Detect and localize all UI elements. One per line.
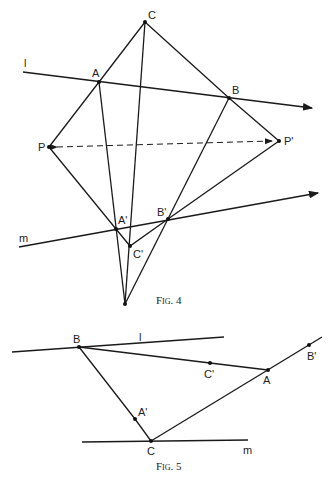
segment-B-Cp-A bbox=[79, 347, 268, 370]
point-Ap bbox=[133, 417, 137, 421]
label-Pp: P' bbox=[284, 135, 293, 147]
point-Pp bbox=[277, 139, 281, 143]
label-line-l: l bbox=[24, 57, 26, 69]
label-Bp: B' bbox=[157, 206, 166, 218]
point-P bbox=[47, 145, 51, 149]
line-m bbox=[82, 440, 248, 442]
point-A bbox=[266, 368, 270, 372]
point-O bbox=[123, 302, 127, 306]
point-Ap bbox=[114, 227, 118, 231]
label-line-l: l bbox=[139, 331, 141, 343]
point-Bp bbox=[166, 217, 170, 221]
label-C: C bbox=[148, 9, 156, 21]
segment-B-Ap-C bbox=[79, 347, 151, 441]
point-B bbox=[227, 96, 231, 100]
figure-4: C A B P P' A' B' C' l m Fig. 4 bbox=[19, 9, 318, 306]
caption-fig-5: Fig. 5 bbox=[156, 460, 182, 472]
label-C: C bbox=[147, 445, 155, 457]
label-line-m: m bbox=[19, 232, 28, 244]
figure-5: B C' A B' A' C l m Fig. 5 bbox=[12, 331, 322, 472]
ray-O-C bbox=[125, 22, 145, 304]
caption-fig-4: Fig. 4 bbox=[156, 294, 182, 306]
label-Ap: A' bbox=[138, 406, 147, 418]
label-Bp: B' bbox=[307, 350, 316, 362]
label-B: B bbox=[73, 333, 80, 345]
label-Cp: C' bbox=[133, 248, 143, 260]
label-P: P bbox=[38, 141, 45, 153]
point-A bbox=[97, 80, 101, 84]
line-l bbox=[12, 337, 224, 352]
dashed-P-Pp bbox=[57, 141, 272, 147]
point-C bbox=[149, 439, 153, 443]
label-B: B bbox=[232, 84, 239, 96]
label-A: A bbox=[92, 67, 100, 79]
label-A: A bbox=[263, 374, 271, 386]
diagram-canvas: C A B P P' A' B' C' l m Fig. 4 B C' A B'… bbox=[0, 0, 334, 482]
segment-C-A-Bp bbox=[151, 337, 322, 441]
point-Bp bbox=[307, 343, 311, 347]
geometry-figures: C A B P P' A' B' C' l m Fig. 4 B C' A B'… bbox=[0, 0, 334, 482]
ray-O-B bbox=[125, 98, 229, 304]
label-Ap: A' bbox=[118, 214, 127, 226]
label-line-m: m bbox=[243, 444, 252, 456]
ray-O-A bbox=[99, 82, 125, 304]
segment-P-Ap-Cp-Bp-Pp bbox=[49, 141, 279, 246]
point-B bbox=[77, 345, 81, 349]
point-Cp bbox=[208, 361, 212, 365]
point-Cp bbox=[128, 244, 132, 248]
segment-C-B-Pp bbox=[145, 22, 279, 141]
point-C bbox=[143, 20, 147, 24]
segment-P-A-C bbox=[49, 22, 145, 147]
line-l bbox=[23, 72, 312, 108]
label-Cp: C' bbox=[204, 368, 214, 380]
